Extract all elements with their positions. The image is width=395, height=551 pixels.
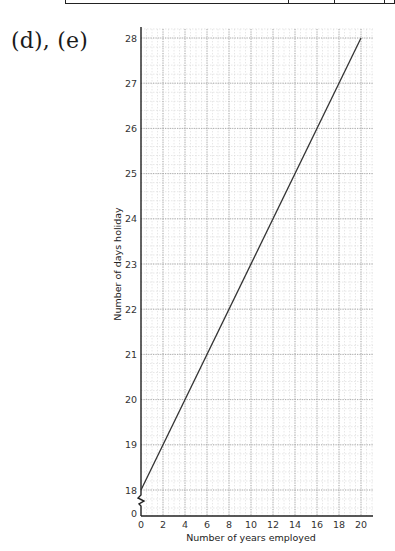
y-axis-title: Number of days holiday <box>112 207 123 321</box>
y-axis <box>138 27 144 516</box>
y-origin-label: 0 <box>131 508 137 519</box>
y-tick-label: 28 <box>125 33 137 44</box>
y-tick-label: 18 <box>125 485 137 496</box>
x-tick-label: 4 <box>182 519 188 530</box>
x-tick-label: 6 <box>204 519 210 530</box>
y-tick-label: 21 <box>125 349 137 360</box>
y-tick-label: 20 <box>125 394 137 405</box>
x-tick-label: 16 <box>311 519 323 530</box>
x-axis-title: Number of years employed <box>186 532 316 543</box>
y-tick-label: 24 <box>125 213 137 224</box>
y-tick-label: 22 <box>125 304 137 315</box>
y-tick-label: 25 <box>125 168 137 179</box>
y-tick-label: 27 <box>125 78 137 89</box>
x-tick-label: 14 <box>289 519 301 530</box>
x-tick-label: 20 <box>355 519 367 530</box>
x-tick-label: 8 <box>226 519 232 530</box>
y-tick-label: 23 <box>125 259 137 270</box>
x-tick-label: 2 <box>160 519 166 530</box>
x-tick-label: 10 <box>245 519 257 530</box>
x-tick-label: 18 <box>333 519 345 530</box>
x-tick-label: 0 <box>138 519 144 530</box>
x-tick-label: 12 <box>267 519 279 530</box>
y-tick-label: 26 <box>125 123 137 134</box>
y-tick-label: 19 <box>125 439 137 450</box>
